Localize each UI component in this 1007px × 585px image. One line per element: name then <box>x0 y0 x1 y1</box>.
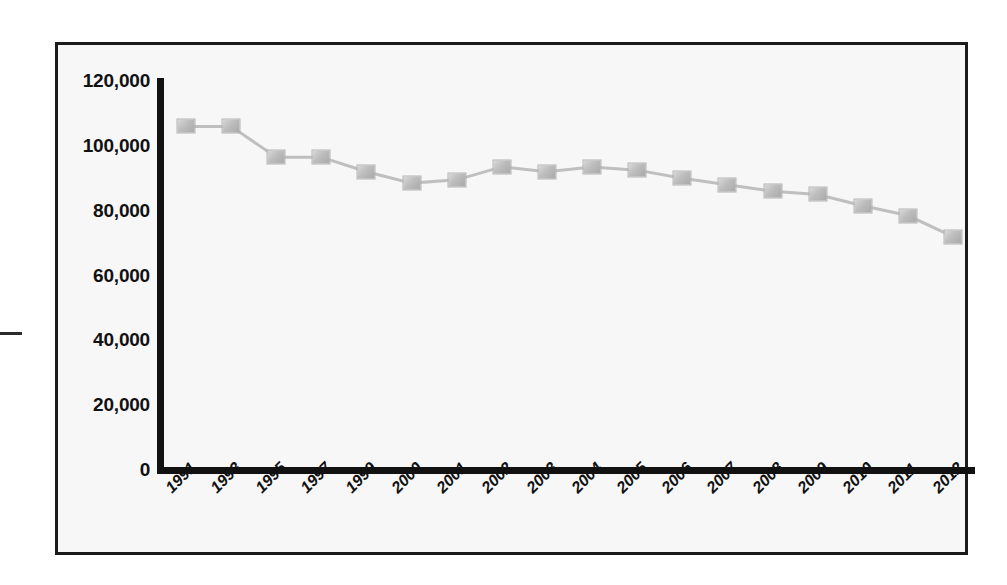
left-edge-dash-mark <box>0 332 22 335</box>
data-point-marker <box>673 171 692 186</box>
data-point-marker <box>898 208 917 223</box>
data-point-marker <box>312 150 331 165</box>
data-point-marker <box>357 164 376 179</box>
x-axis-tick-labels: 1991199319951997199920002001200220032004… <box>58 474 965 558</box>
data-point-marker <box>267 150 286 165</box>
series-polyline <box>186 126 953 236</box>
data-point-marker <box>628 163 647 178</box>
plot-area: 020,00040,00060,00080,000100,000120,000 … <box>58 45 965 552</box>
data-point-marker <box>222 119 241 134</box>
data-point-marker <box>492 159 511 174</box>
data-point-marker <box>447 172 466 187</box>
data-point-marker <box>177 119 196 134</box>
data-point-marker <box>402 176 421 191</box>
data-point-marker <box>763 184 782 199</box>
data-point-marker <box>853 198 872 213</box>
data-point-marker <box>808 187 827 202</box>
data-point-marker <box>944 229 963 244</box>
data-point-marker <box>718 177 737 192</box>
data-point-marker <box>583 159 602 174</box>
data-point-marker <box>537 164 556 179</box>
chart-page: 020,00040,00060,00080,000100,000120,000 … <box>0 0 1007 585</box>
chart-frame: 020,00040,00060,00080,000100,000120,000 … <box>55 42 968 555</box>
